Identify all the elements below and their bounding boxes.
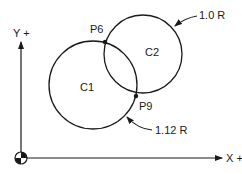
x-axis-label: X + <box>226 152 242 164</box>
circle-c2-label: C2 <box>145 46 159 58</box>
point-p6-label: P6 <box>90 23 103 35</box>
circle-c2 <box>104 15 182 93</box>
radius-c1-leader <box>127 117 152 130</box>
radius-c1-label: 1.12 R <box>155 124 187 136</box>
circle-intersection-diagram: X + Y + C1 C2 P6 P9 1.0 R 1.12 R <box>0 0 242 174</box>
circle-c1-label: C1 <box>80 81 94 93</box>
radius-c2-leader <box>175 16 197 26</box>
point-p6 <box>103 40 107 44</box>
point-p9 <box>134 94 138 98</box>
radius-c2-label: 1.0 R <box>199 9 225 21</box>
origin-icon <box>15 152 27 164</box>
y-axis-label: Y + <box>13 27 30 39</box>
point-p9-label: P9 <box>139 100 152 112</box>
